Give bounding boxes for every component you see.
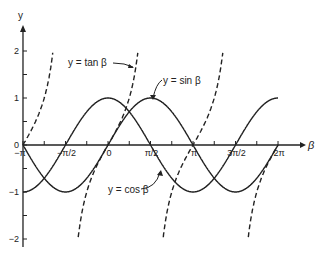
y-tick-label: −2 <box>9 234 19 244</box>
x-tick-label: π/2 <box>145 148 159 158</box>
y-tick-label: 0 <box>14 140 19 150</box>
x-tick-label: 3π/2 <box>227 148 246 158</box>
tan-curve <box>248 145 278 237</box>
x-axis-arrow-icon <box>300 142 306 148</box>
cos-arrow-icon <box>157 170 163 176</box>
trig-function-chart: −π−π/20π/2π3π/22π210−1−2 y = tan β y = s… <box>0 0 322 257</box>
x-tick-label: π <box>191 148 197 158</box>
y-tick-label: 1 <box>14 93 19 103</box>
y-axis-label: y <box>18 10 23 21</box>
tan-curve <box>23 53 53 145</box>
y-axis-arrow-icon <box>20 25 26 32</box>
tan-label: y = tan β <box>68 57 107 68</box>
x-tick-label: 0 <box>106 148 111 158</box>
plot-area: −π−π/20π/2π3π/22π210−1−2 y = tan β y = s… <box>0 0 322 257</box>
tan-arrow-icon <box>128 64 134 68</box>
cos-label: y = cos β <box>108 184 149 195</box>
x-tick-label: −π/2 <box>57 148 76 158</box>
annotations: y = tan β y = sin β y = cos β y β <box>18 10 315 195</box>
x-tick-label: 2π <box>273 148 284 158</box>
sin-label: y = sin β <box>163 75 201 86</box>
axes <box>20 25 306 247</box>
x-axis-label: β <box>307 139 315 151</box>
y-tick-label: 2 <box>14 46 19 56</box>
y-tick-label: −1 <box>9 187 19 197</box>
